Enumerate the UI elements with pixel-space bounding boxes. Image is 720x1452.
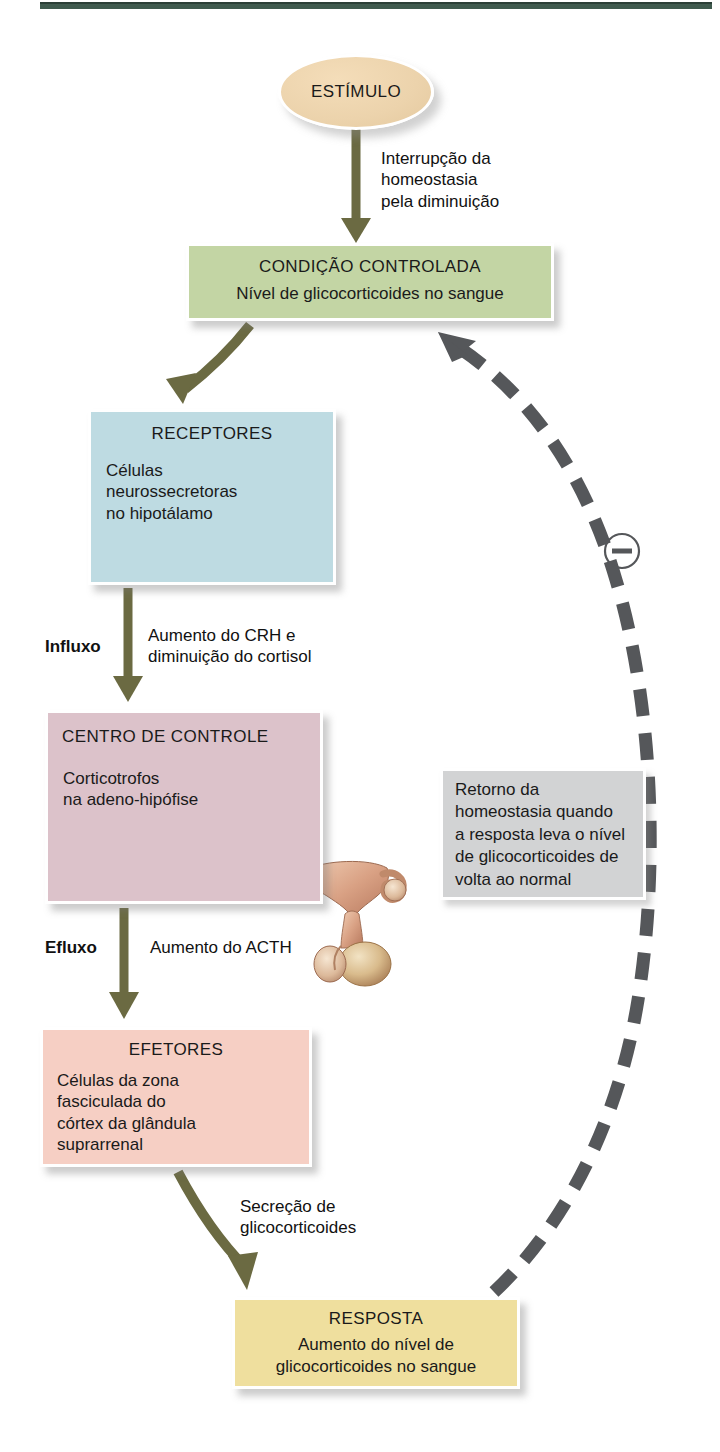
label-aumento-acth: Aumento do ACTH <box>150 937 292 958</box>
resposta-title: RESPOSTA <box>235 1309 517 1329</box>
centro-title: CENTRO DE CONTROLE <box>48 727 320 747</box>
label-secrecao-glicocorticoides: Secreção de glicocorticoides <box>240 1196 356 1239</box>
negative-feedback-sign <box>605 534 639 568</box>
node-estimulo[interactable]: ESTÍMULO <box>278 54 434 130</box>
arrow-estimulo-to-condicao <box>341 128 371 243</box>
receptores-title: RECEPTORES <box>91 424 333 444</box>
arrow-receptores-to-centro <box>113 588 143 702</box>
centro-body: Corticotrofos na adeno-hipófise <box>63 768 228 811</box>
top-rule-divider <box>40 2 712 9</box>
node-retorno-homeostasia[interactable]: Retorno da homeostasia quando a resposta… <box>440 768 646 900</box>
node-condicao-controlada[interactable]: CONDIÇÃO CONTROLADA Nível de glicocortic… <box>186 243 554 321</box>
node-centro-de-controle[interactable]: CENTRO DE CONTROLE Corticotrofos na aden… <box>45 710 323 904</box>
label-interrupcao-homeostasia: Interrupção da homeostasia pela diminuiç… <box>381 148 499 212</box>
diagram-canvas: ESTÍMULO CONDIÇÃO CONTROLADA Nível de gl… <box>0 0 720 1452</box>
label-aumento-crh: Aumento do CRH e diminuição do cortisol <box>148 625 311 668</box>
node-receptores[interactable]: RECEPTORES Células neurossecretoras no h… <box>88 409 336 585</box>
node-efetores[interactable]: EFETORES Células da zona fasciculada do … <box>40 1027 312 1167</box>
receptores-body: Células neurossecretoras no hipotálamo <box>106 460 246 524</box>
retorno-body: Retorno da homeostasia quando a resposta… <box>443 771 643 891</box>
condicao-body: Nível de glicocorticoides no sangue <box>189 283 551 304</box>
label-influxo: Influxo <box>45 636 101 657</box>
arrow-condicao-to-receptores <box>166 325 250 404</box>
efetores-title: EFETORES <box>43 1040 309 1060</box>
efetores-body: Células da zona fasciculada do córtex da… <box>57 1070 232 1155</box>
label-efluxo: Efluxo <box>45 937 97 958</box>
arrow-centro-to-efetores <box>109 908 139 1019</box>
condicao-title: CONDIÇÃO CONTROLADA <box>189 257 551 277</box>
estimulo-title: ESTÍMULO <box>311 82 401 102</box>
resposta-body: Aumento do nível de glicocorticoides no … <box>235 1334 517 1377</box>
node-resposta[interactable]: RESPOSTA Aumento do nível de glicocortic… <box>232 1297 520 1389</box>
